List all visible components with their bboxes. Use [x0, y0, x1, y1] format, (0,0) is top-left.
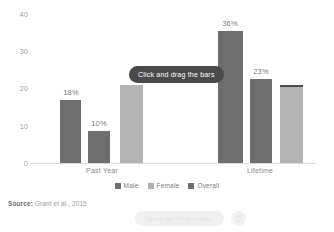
- legend-label-overall: Overall: [197, 182, 219, 189]
- bar-label-past-year-male: 18%: [54, 88, 88, 97]
- x-axis-line: [30, 163, 316, 164]
- chart-controls: Show me the true data: [135, 211, 246, 226]
- y-tick-10: 10: [6, 123, 28, 130]
- bar-past-year-male[interactable]: [60, 100, 81, 163]
- chart-legend: Male Female Overall: [0, 182, 334, 189]
- plot-area: 40 30 20 10 0 18% 10% 36% 23% Past Year …: [0, 0, 334, 232]
- reset-button[interactable]: [231, 211, 246, 226]
- y-tick-20: 20: [6, 85, 28, 92]
- legend-swatch-icon: [188, 183, 194, 189]
- reset-icon: [234, 214, 243, 223]
- legend-item-overall[interactable]: Overall: [188, 182, 219, 189]
- bar-chart-widget: 40 30 20 10 0 18% 10% 36% 23% Past Year …: [0, 0, 334, 232]
- bar-lifetime-overall[interactable]: [280, 85, 303, 163]
- legend-label-female: Female: [157, 182, 180, 189]
- x-tick-lifetime: Lifetime: [230, 167, 290, 174]
- legend-item-male[interactable]: Male: [115, 182, 139, 189]
- bar-label-lifetime-male: 36%: [213, 19, 247, 28]
- bar-label-lifetime-female: 23%: [244, 67, 278, 76]
- source-label: Source:: [8, 200, 33, 207]
- legend-item-female[interactable]: Female: [148, 182, 180, 189]
- source-note: Source: Grant et al., 2015: [8, 200, 87, 207]
- x-tick-past-year: Past Year: [72, 167, 132, 174]
- legend-label-male: Male: [124, 182, 139, 189]
- source-text: Grant et al., 2015: [35, 200, 87, 207]
- bar-past-year-female[interactable]: [88, 131, 110, 163]
- bar-lifetime-female[interactable]: [250, 79, 272, 163]
- legend-swatch-icon: [115, 183, 121, 189]
- show-true-data-button[interactable]: Show me the true data: [135, 211, 224, 226]
- bar-past-year-overall[interactable]: [120, 85, 143, 163]
- y-tick-40: 40: [6, 11, 28, 18]
- bar-label-past-year-female: 10%: [82, 119, 116, 128]
- y-tick-30: 30: [6, 48, 28, 55]
- drag-hint-tooltip: Click and drag the bars: [129, 66, 224, 83]
- legend-swatch-icon: [148, 183, 154, 189]
- bar-lifetime-male[interactable]: [218, 31, 243, 163]
- y-tick-0: 0: [6, 160, 28, 167]
